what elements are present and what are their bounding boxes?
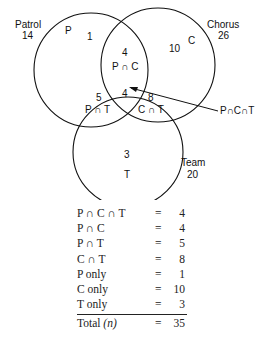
summary-row: P ∩ C = 4: [77, 221, 187, 236]
p-letter: P: [65, 25, 72, 36]
row-eq: =: [155, 221, 169, 236]
row-key: P ∩ C: [77, 221, 155, 236]
summary-row: P only = 1: [77, 267, 187, 282]
patrol-label: Patrol: [15, 19, 41, 30]
row-value: 1: [169, 267, 185, 282]
summary-row: C only = 10: [77, 282, 187, 297]
summary-table: P ∩ C ∩ T = 4 P ∩ C = 4 P ∩ T = 5 C ∩ T …: [77, 206, 187, 332]
row-key: P ∩ T: [77, 236, 155, 251]
summary-row: T only = 3: [77, 297, 187, 312]
total-value: 35: [169, 316, 185, 331]
total-variable: (n): [103, 317, 116, 329]
p-and-c-value: 4: [122, 47, 128, 58]
p-only-value: 1: [87, 31, 93, 42]
row-eq: =: [155, 206, 169, 221]
team-total: 20: [187, 169, 199, 180]
c-letter: C: [188, 35, 195, 46]
summary-row: P ∩ C ∩ T = 4: [77, 206, 187, 221]
row-eq: =: [155, 297, 169, 312]
total-eq: =: [155, 316, 169, 331]
callout-label: P∩C∩T: [220, 105, 254, 116]
row-eq: =: [155, 236, 169, 251]
total-label: Total: [77, 317, 100, 329]
row-key: P ∩ C ∩ T: [77, 206, 155, 221]
arrowhead-icon: [129, 87, 138, 92]
row-key: T only: [77, 297, 155, 312]
summary-row: C ∩ T = 8: [77, 252, 187, 267]
chorus-total: 26: [218, 30, 230, 41]
t-only-value: 3: [124, 149, 130, 160]
row-value: 4: [169, 206, 185, 221]
total-key: Total (n): [77, 316, 155, 331]
summary-row: P ∩ T = 5: [77, 236, 187, 251]
team-label: Team: [181, 157, 205, 168]
t-letter: T: [124, 169, 130, 180]
p-c-t-value: 4: [122, 88, 128, 99]
row-key: C ∩ T: [77, 252, 155, 267]
patrol-total: 14: [22, 30, 34, 41]
row-key: P only: [77, 267, 155, 282]
row-value: 8: [169, 252, 185, 267]
row-eq: =: [155, 267, 169, 282]
p-and-t-value: 5: [96, 92, 102, 103]
p-and-t-label: P ∩ T: [85, 104, 110, 115]
row-eq: =: [155, 282, 169, 297]
row-value: 10: [169, 282, 185, 297]
row-value: 4: [169, 221, 185, 236]
row-value: 5: [169, 236, 185, 251]
row-value: 3: [169, 297, 185, 312]
chorus-label: Chorus: [207, 19, 239, 30]
summary-total-row: Total (n) = 35: [77, 314, 187, 331]
venn-diagram: Patrol 14 Chorus 26 Team 20 P C T 1 10 3…: [0, 0, 279, 200]
row-key: C only: [77, 282, 155, 297]
c-only-value: 10: [169, 43, 181, 54]
c-and-t-label: C ∩ T: [138, 104, 164, 115]
row-eq: =: [155, 252, 169, 267]
p-and-c-label: P ∩ C: [112, 61, 138, 72]
